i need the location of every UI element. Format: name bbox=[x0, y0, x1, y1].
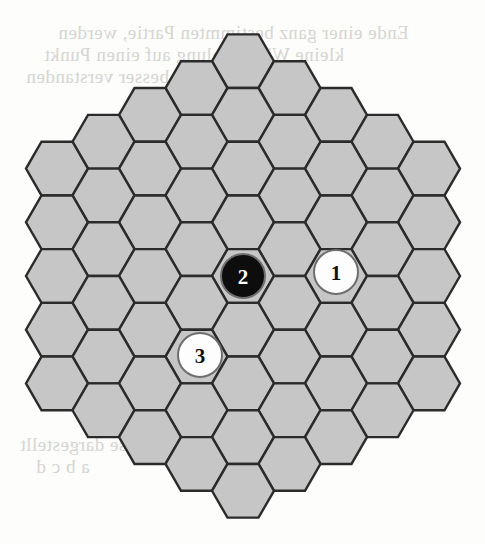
game-piece-3[interactable]: 3 bbox=[178, 333, 222, 377]
page-canvas: Ende einer ganz bestimmten Partie, werde… bbox=[0, 0, 485, 544]
piece-label-3: 3 bbox=[195, 344, 206, 368]
hex-board[interactable]: 123 bbox=[0, 0, 485, 544]
piece-label-1: 1 bbox=[331, 261, 342, 285]
piece-label-2: 2 bbox=[238, 265, 249, 289]
game-piece-2[interactable]: 2 bbox=[221, 254, 265, 298]
game-piece-1[interactable]: 1 bbox=[314, 250, 358, 294]
